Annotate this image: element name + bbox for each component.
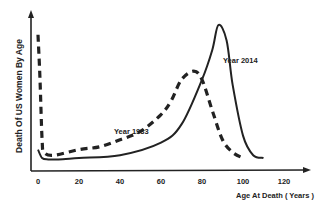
annotation-year-1933: Year 1933	[114, 127, 149, 136]
x-axis-arrow-icon	[303, 167, 311, 173]
x-axis-ticks: 020406080100120	[36, 177, 290, 186]
series-2014-line	[38, 25, 264, 160]
x-tick-label: 0	[36, 177, 40, 186]
axes	[28, 10, 311, 173]
x-axis-label: Age At Death ( Years )	[236, 191, 314, 200]
death-distribution-chart: Death Of US Women By Age 020406080100120…	[0, 0, 325, 212]
y-axis-label: Death Of US Women By Age	[14, 39, 24, 153]
x-axis	[31, 170, 306, 171]
x-tick-label: 20	[75, 177, 83, 186]
y-axis-arrow-icon	[28, 10, 34, 18]
x-tick-label: 100	[237, 177, 250, 186]
x-tick-label: 120	[278, 177, 291, 186]
x-tick-label: 60	[157, 177, 165, 186]
x-tick-label: 40	[116, 177, 124, 186]
x-tick-label: 80	[198, 177, 206, 186]
annotation-year-2014: Year 2014	[223, 56, 258, 65]
